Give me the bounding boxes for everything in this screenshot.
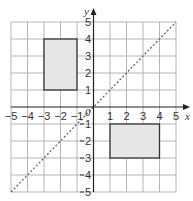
svg-text:5: 5 bbox=[85, 186, 91, 198]
svg-text:1: 1 bbox=[107, 110, 113, 122]
svg-text:1: 1 bbox=[85, 84, 91, 96]
svg-text:3: 3 bbox=[140, 110, 146, 122]
svg-text:4: 4 bbox=[85, 33, 91, 45]
svg-text:5: 5 bbox=[173, 110, 179, 122]
y-negative-minus-signs bbox=[80, 124, 84, 192]
svg-text:−2: −2 bbox=[54, 110, 67, 122]
rectangle-a bbox=[44, 39, 77, 90]
svg-text:2: 2 bbox=[85, 135, 91, 147]
coordinate-grid-diagram: y x 0 −5 −4 −3 −2 −1 1 2 3 4 5 1 2 3 4 5… bbox=[0, 0, 193, 201]
rectangle-b bbox=[110, 124, 160, 158]
svg-text:4: 4 bbox=[156, 110, 162, 122]
svg-text:5: 5 bbox=[85, 16, 91, 28]
svg-text:−5: −5 bbox=[5, 110, 18, 122]
x-tick-labels: −5 −4 −3 −2 −1 1 2 3 4 5 bbox=[5, 110, 179, 122]
x-axis-label: x bbox=[184, 110, 190, 122]
svg-text:3: 3 bbox=[85, 152, 91, 164]
svg-text:−3: −3 bbox=[38, 110, 51, 122]
y-axis-arrow-icon bbox=[91, 8, 97, 15]
svg-text:2: 2 bbox=[85, 67, 91, 79]
svg-text:4: 4 bbox=[85, 169, 91, 181]
svg-text:3: 3 bbox=[85, 50, 91, 62]
origin-label: 0 bbox=[85, 106, 91, 118]
svg-text:1: 1 bbox=[85, 118, 91, 130]
svg-text:−4: −4 bbox=[21, 110, 34, 122]
svg-text:−1: −1 bbox=[71, 110, 84, 122]
svg-text:2: 2 bbox=[123, 110, 129, 122]
